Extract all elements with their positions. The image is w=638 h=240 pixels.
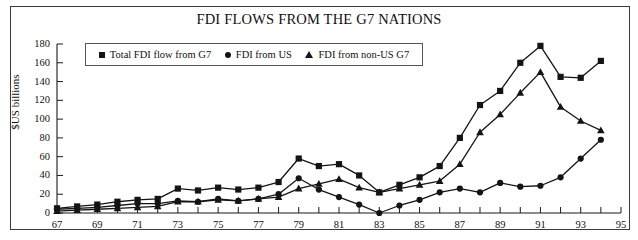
- marker-square: [316, 163, 322, 169]
- y-tick-label: 40: [16, 170, 50, 181]
- y-tick-label: 0: [16, 208, 50, 219]
- marker-triangle: [456, 160, 464, 167]
- x-tick-label: 71: [123, 220, 153, 231]
- x-tick-label: 89: [485, 220, 515, 231]
- x-tick-label: 77: [243, 220, 273, 231]
- marker-square: [175, 185, 181, 191]
- y-tick-label: 180: [16, 39, 50, 50]
- marker-square: [195, 187, 201, 193]
- marker-circle: [416, 197, 422, 203]
- x-tick-label: 83: [364, 220, 394, 231]
- marker-circle: [396, 202, 402, 208]
- marker-triangle: [557, 103, 565, 110]
- marker-triangle: [335, 175, 343, 182]
- y-tick-label: 60: [16, 152, 50, 163]
- legend: Total FDI flow from G7 FDI from US FDI f…: [85, 43, 423, 66]
- marker-square: [235, 186, 241, 192]
- marker-circle: [336, 194, 342, 200]
- series-markers: [53, 43, 604, 216]
- y-tick-label: 80: [16, 133, 50, 144]
- marker-circle: [437, 189, 443, 195]
- marker-triangle: [537, 68, 545, 75]
- x-tick-label: 87: [445, 220, 475, 231]
- legend-label-us: FDI from US: [236, 49, 292, 60]
- marker-circle: [376, 210, 382, 216]
- marker-square: [255, 185, 261, 191]
- x-tick-label: 69: [82, 220, 112, 231]
- x-tick-label: 91: [525, 220, 555, 231]
- marker-triangle: [577, 117, 585, 124]
- marker-square: [356, 172, 362, 178]
- legend-entry-total: Total FDI flow from G7: [99, 49, 211, 60]
- marker-square: [517, 60, 523, 66]
- x-tick-label: 93: [566, 220, 596, 231]
- marker-square: [497, 88, 503, 94]
- marker-circle: [296, 175, 302, 181]
- marker-circle: [537, 183, 543, 189]
- x-tick-label: 79: [284, 220, 314, 231]
- marker-square: [416, 174, 422, 180]
- marker-square: [578, 75, 584, 81]
- marker-circle: [316, 186, 322, 192]
- marker-circle: [557, 174, 563, 180]
- marker-square: [437, 163, 443, 169]
- marker-square: [557, 74, 563, 80]
- x-axis-ticks: [57, 207, 621, 213]
- y-tick-label: 160: [16, 58, 50, 69]
- x-tick-label: 67: [42, 220, 72, 231]
- y-tick-label: 20: [16, 189, 50, 200]
- chart-figure: FDI FLOWS FROM THE G7 NATIONS $US billio…: [0, 0, 638, 240]
- x-tick-label: 95: [606, 220, 636, 231]
- marker-circle: [598, 137, 604, 143]
- legend-label-total: Total FDI flow from G7: [110, 49, 211, 60]
- plot-area: [0, 0, 638, 240]
- marker-square: [598, 58, 604, 64]
- x-tick-label: 81: [324, 220, 354, 231]
- circle-marker-icon: [225, 52, 231, 58]
- x-tick-label: 73: [163, 220, 193, 231]
- legend-entry-non-us: FDI from non-US G7: [305, 49, 409, 60]
- marker-square: [215, 185, 221, 191]
- y-tick-label: 100: [16, 114, 50, 125]
- plot-svg: [0, 0, 638, 240]
- y-tick-label: 120: [16, 95, 50, 106]
- legend-entry-us: FDI from US: [225, 49, 292, 60]
- marker-square: [477, 102, 483, 108]
- marker-circle: [517, 184, 523, 190]
- axis-lines: [57, 44, 621, 213]
- y-tick-label: 140: [16, 77, 50, 88]
- marker-square: [336, 161, 342, 167]
- legend-label-non-us: FDI from non-US G7: [318, 49, 409, 60]
- x-tick-label: 85: [405, 220, 435, 231]
- marker-circle: [457, 185, 463, 191]
- marker-square: [457, 135, 463, 141]
- marker-circle: [477, 189, 483, 195]
- marker-square: [537, 43, 543, 49]
- square-marker-icon: [99, 52, 105, 58]
- triangle-marker-icon: [305, 51, 313, 58]
- marker-square: [275, 179, 281, 185]
- marker-circle: [578, 155, 584, 161]
- y-axis-ticks: [57, 44, 63, 213]
- marker-circle: [356, 201, 362, 207]
- marker-circle: [497, 180, 503, 186]
- x-tick-label: 75: [203, 220, 233, 231]
- marker-square: [296, 155, 302, 161]
